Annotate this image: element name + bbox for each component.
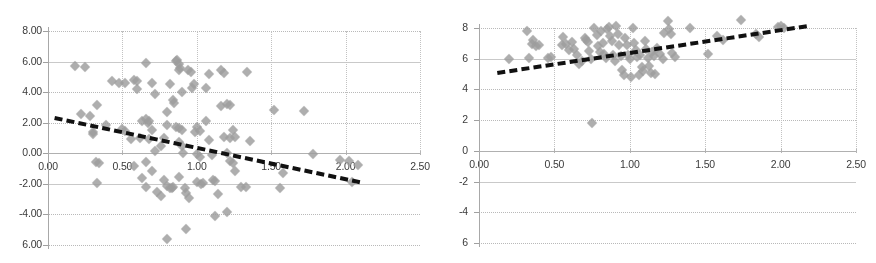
data-point	[524, 53, 534, 63]
data-point	[736, 15, 746, 25]
data-point	[299, 106, 309, 116]
axis-label-y: 6	[448, 236, 468, 248]
axis-x-line	[479, 151, 856, 152]
data-point	[178, 148, 188, 158]
axis-label-y: 4	[448, 82, 468, 94]
gridline-horizontal	[48, 92, 420, 93]
axis-label-x: 1.00	[608, 158, 652, 170]
data-point	[650, 69, 660, 79]
gridline-vertical	[856, 28, 857, 151]
data-point	[504, 55, 514, 65]
axis-label-x: 2.50	[398, 160, 442, 172]
axis-y-line	[48, 27, 49, 249]
gridline-horizontal	[479, 182, 856, 183]
data-point	[147, 78, 157, 88]
gridline-horizontal	[479, 89, 856, 90]
gridline-horizontal	[48, 184, 420, 185]
data-point	[231, 166, 241, 176]
data-point	[70, 62, 80, 72]
data-point	[162, 120, 172, 130]
data-point	[213, 189, 223, 199]
data-point	[165, 79, 175, 89]
gridline-vertical	[346, 31, 347, 153]
data-point	[162, 107, 172, 117]
axis-label-x: 2.00	[759, 158, 803, 170]
tick-x	[856, 149, 857, 153]
left-plot-canvas: 8.006.004.002.000.00-2.00-4.006.000.000.…	[0, 0, 438, 263]
axis-label-y: 6	[448, 52, 468, 64]
gridline-horizontal	[479, 212, 856, 213]
axis-label-y: 0.00	[8, 146, 42, 158]
axis-label-y: -2	[448, 175, 468, 187]
axis-label-x: 1.00	[175, 160, 219, 172]
gridline-horizontal	[48, 62, 420, 63]
data-point	[162, 234, 172, 244]
data-point	[147, 166, 157, 176]
data-point	[141, 58, 151, 68]
gridline-vertical	[781, 28, 782, 151]
right-plot-canvas: 86420-2-460.000.501.001.502.002.50	[438, 0, 876, 263]
axis-label-x: 2.50	[834, 158, 876, 170]
data-point	[201, 117, 211, 127]
data-point	[174, 172, 184, 182]
right-plot-area: 86420-2-460.000.501.001.502.002.50	[438, 0, 876, 263]
data-point	[204, 69, 214, 79]
tick-x	[420, 151, 421, 155]
gridline-vertical	[705, 28, 706, 151]
gridline-vertical	[271, 31, 272, 153]
two-panel-scatter-figure: 8.006.004.002.000.00-2.00-4.006.000.000.…	[0, 0, 876, 263]
axis-label-x: 1.50	[683, 158, 727, 170]
gridline-vertical	[420, 31, 421, 153]
axis-label-y: 2.00	[8, 116, 42, 128]
gridline-vertical	[554, 28, 555, 151]
data-point	[181, 224, 191, 234]
data-point	[76, 109, 86, 119]
axis-label-x: 0.50	[532, 158, 576, 170]
axis-label-y: 6.00	[8, 55, 42, 67]
axis-label-y: -2.00	[8, 177, 42, 189]
data-point	[308, 149, 318, 159]
data-point	[204, 135, 214, 145]
data-point	[177, 87, 187, 97]
data-point	[685, 23, 695, 33]
axis-label-y: -4	[448, 205, 468, 217]
gridline-horizontal	[479, 243, 856, 244]
axis-label-y: 2	[448, 113, 468, 125]
axis-label-y: -4.00	[8, 207, 42, 219]
gridline-horizontal	[48, 31, 420, 32]
chart-panel-left: 8.006.004.002.000.00-2.00-4.006.000.000.…	[0, 0, 438, 263]
data-point	[245, 136, 255, 146]
data-point	[210, 211, 220, 221]
gridline-horizontal	[48, 214, 420, 215]
data-point	[80, 62, 90, 72]
axis-label-y: 8	[448, 21, 468, 33]
data-point	[184, 193, 194, 203]
axis-label-y: 4.00	[8, 85, 42, 97]
data-point	[92, 178, 102, 188]
gridline-horizontal	[479, 120, 856, 121]
axis-label-y: 6.00	[8, 238, 42, 250]
left-plot-area: 8.006.004.002.000.00-2.00-4.006.000.000.…	[0, 0, 438, 263]
chart-panel-right: 86420-2-460.000.501.001.502.002.50	[438, 0, 876, 263]
data-point	[150, 89, 160, 99]
axis-label-y: 8.00	[8, 24, 42, 36]
gridline-horizontal	[48, 245, 420, 246]
axis-label-y: 0	[448, 144, 468, 156]
data-point	[92, 100, 102, 110]
data-point	[85, 111, 95, 121]
data-point	[242, 67, 252, 77]
axis-y-line	[479, 24, 480, 247]
